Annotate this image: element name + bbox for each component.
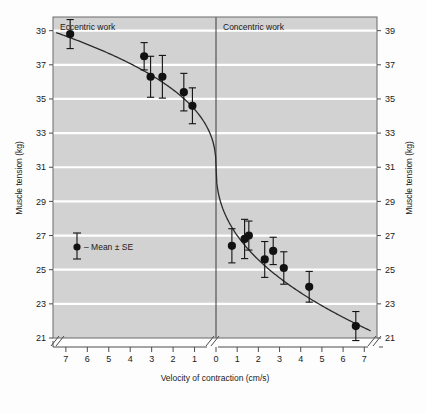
y-tick-label-left-25: 25 [36,265,46,275]
panel-label-concentric: Concentric work [223,22,285,32]
y-tick-label-left-33: 33 [36,128,46,138]
y-tick-label-right-23: 23 [385,299,395,309]
figure-container: 2121232325252727292931313333353537373939… [0,0,426,413]
force-velocity-chart: 2121232325252727292931313333353537373939… [0,0,426,413]
y-axis-title-left: Muscle tension (kg) [14,141,24,215]
x-tick-label-right-6: 6 [341,354,346,364]
x-tick-label-left-1: 1 [192,354,197,364]
panel-label-eccentric: Eccentric work [60,22,116,32]
marker-dot [188,102,196,110]
marker-dot [261,255,269,263]
y-tick-label-right-37: 37 [385,60,395,70]
x-tick-label-right-1: 1 [235,354,240,364]
marker-dot [180,88,188,96]
y-tick-label-right-35: 35 [385,94,395,104]
marker-dot [158,73,166,81]
x-tick-label-right-7: 7 [362,354,367,364]
x-tick-label-left-0: 0 [213,354,218,364]
x-tick-label-left-4: 4 [128,354,133,364]
y-tick-label-right-39: 39 [385,26,395,36]
marker-dot [269,247,277,255]
y-tick-label-right-21: 21 [385,333,395,343]
legend-label: – Mean ± SE [84,242,133,252]
marker-dot [245,231,253,239]
y-tick-label-right-25: 25 [385,265,395,275]
marker-dot [280,264,288,272]
y-tick-label-right-27: 27 [385,231,395,241]
x-tick-label-right-2: 2 [256,354,261,364]
y-tick-label-left-27: 27 [36,231,46,241]
x-tick-label-left-2: 2 [171,354,176,364]
y-tick-label-left-29: 29 [36,197,46,207]
marker-dot [228,242,236,250]
y-tick-label-left-23: 23 [36,299,46,309]
marker-dot [305,283,313,291]
x-axis-title: Velocity of contraction (cm/s) [161,373,270,383]
marker-dot [352,322,360,330]
y-tick-label-left-39: 39 [36,26,46,36]
marker-dot [146,73,154,81]
y-tick-label-left-21: 21 [36,333,46,343]
x-tick-label-left-5: 5 [106,354,111,364]
x-tick-label-left-3: 3 [149,354,154,364]
x-tick-label-left-6: 6 [85,354,90,364]
x-tick-label-right-5: 5 [319,354,324,364]
legend-marker [73,243,80,250]
x-tick-label-right-4: 4 [298,354,303,364]
y-tick-label-left-31: 31 [36,162,46,172]
x-tick-label-left-7: 7 [63,354,68,364]
y-axis-title-right: Muscle tension (kg) [404,141,414,215]
y-tick-label-left-37: 37 [36,60,46,70]
y-tick-label-right-29: 29 [385,197,395,207]
y-tick-label-left-35: 35 [36,94,46,104]
y-tick-label-right-33: 33 [385,128,395,138]
y-tick-label-right-31: 31 [385,162,395,172]
x-tick-label-right-3: 3 [277,354,282,364]
